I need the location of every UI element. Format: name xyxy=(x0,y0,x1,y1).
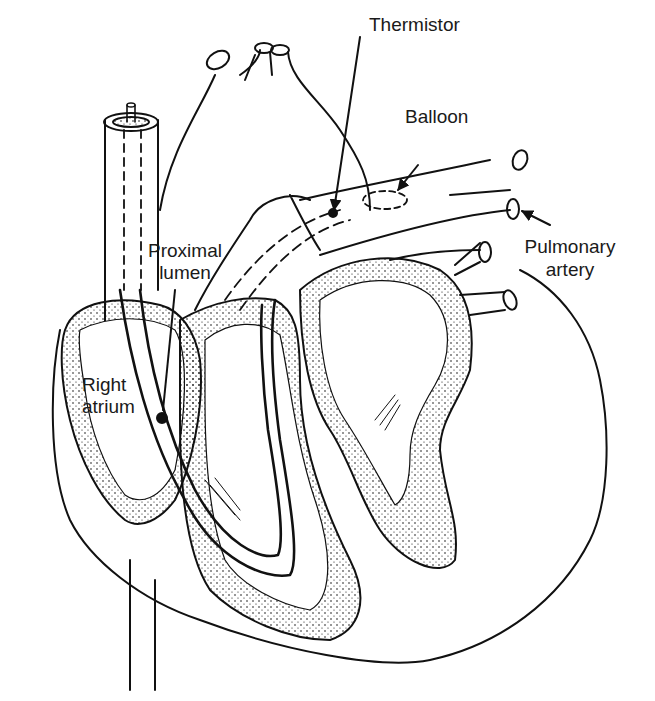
thermistor-dot xyxy=(329,209,337,217)
thermistor-pointer xyxy=(334,37,360,210)
inferior-vena-cava xyxy=(130,560,155,690)
superior-vena-cava xyxy=(105,120,158,330)
proximal-lumen-label-line2: lumen xyxy=(140,262,230,284)
right-atrium-label-line1: Right xyxy=(82,374,126,396)
proximal-lumen-dot xyxy=(157,413,167,423)
pulmonary-artery-label-line2: artery xyxy=(520,259,620,281)
pulmonary-artery-label-line1: Pulmonary xyxy=(520,236,620,258)
pulmonary-artery-pointer xyxy=(522,211,550,225)
proximal-lumen-label-line1: Proximal xyxy=(140,240,230,262)
heart-diagram xyxy=(0,0,655,701)
balloon-label: Balloon xyxy=(405,106,468,128)
thermistor-label: Thermistor xyxy=(369,14,460,36)
right-atrium-label-line2: atrium xyxy=(82,396,135,418)
